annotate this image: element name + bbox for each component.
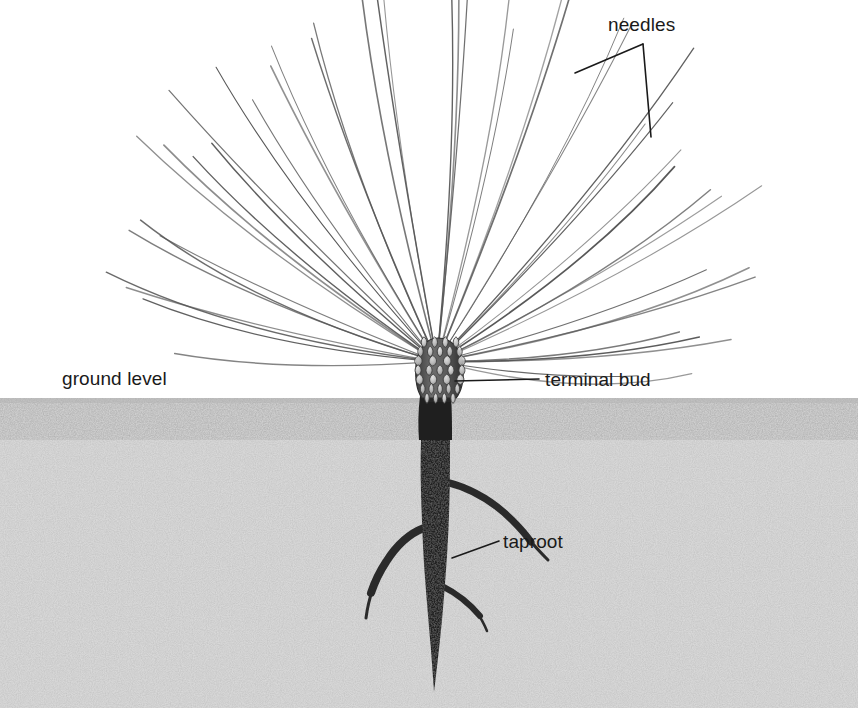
label-needles: needles — [608, 14, 675, 36]
needle — [440, 124, 645, 359]
bud-scale — [443, 337, 449, 348]
bud-scale — [416, 374, 423, 385]
needle — [440, 48, 694, 359]
bud-scale — [429, 356, 437, 367]
bud-scale — [437, 346, 442, 357]
label-ground-level: ground level — [62, 368, 167, 390]
bud-scale — [425, 393, 430, 404]
bud-scale — [438, 384, 443, 395]
needle — [440, 150, 681, 360]
bud-scale — [443, 356, 451, 367]
bud-scale — [459, 365, 465, 376]
seedling-diagram — [0, 0, 858, 708]
bud-scale — [442, 393, 447, 404]
needle — [141, 220, 434, 360]
bud-scale — [453, 337, 459, 348]
needle — [169, 90, 434, 359]
bud-scale — [421, 337, 427, 348]
bud-scale — [420, 384, 425, 395]
needle — [437, 0, 453, 358]
bud-scale — [433, 393, 438, 404]
needle — [253, 100, 435, 359]
needle — [439, 23, 632, 358]
bud-scale — [432, 337, 438, 348]
label-taproot: taproot — [503, 531, 563, 553]
bud-scale — [427, 346, 432, 357]
bud-scale — [451, 393, 456, 404]
bud-scale — [430, 374, 437, 385]
needle — [381, 0, 437, 358]
bud-scale — [457, 374, 464, 385]
illustration-canvas: needles ground level terminal bud taproo… — [0, 0, 858, 708]
bud-scale — [415, 365, 421, 376]
needle-fan — [106, 0, 761, 384]
label-terminal-bud: terminal bud — [545, 369, 651, 391]
needle — [437, 0, 459, 358]
bud-scale — [443, 374, 450, 385]
leader-line-needles-down — [643, 44, 651, 137]
bud-scale — [437, 365, 443, 376]
needle — [370, 0, 437, 358]
needle — [441, 196, 722, 360]
leader-line-terminal-bud — [455, 379, 539, 381]
needle — [137, 136, 434, 359]
bud-scale — [447, 346, 452, 357]
bud-scale — [446, 384, 451, 395]
bud-scale — [426, 365, 432, 376]
needle — [212, 143, 434, 359]
bud-scale — [455, 384, 460, 395]
bud-scale — [429, 384, 434, 395]
bud-scale — [448, 365, 454, 376]
